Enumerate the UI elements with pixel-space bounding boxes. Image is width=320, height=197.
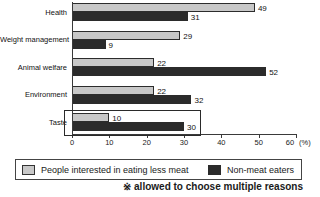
bar-less-meat	[72, 31, 180, 40]
category-label: Taste	[0, 118, 67, 127]
bar-chart-figure: Health4931Weight management299Animal wel…	[0, 0, 320, 197]
x-tick-label: 40	[211, 138, 231, 147]
x-tick-label: 50	[249, 138, 269, 147]
legend-item-non-meat: Non-meat eaters	[208, 160, 294, 179]
bar-less-meat	[72, 3, 255, 12]
taste-highlight-box	[64, 110, 201, 136]
x-tick-label: 0	[62, 138, 82, 147]
x-tick-label: 30	[174, 138, 194, 147]
value-label: 31	[191, 13, 200, 22]
legend-swatch-non-meat	[208, 165, 221, 175]
value-label: 49	[258, 4, 267, 13]
category-label: Health	[0, 8, 67, 17]
legend-swatch-less-meat	[22, 165, 35, 175]
value-label: 32	[194, 96, 203, 105]
value-label: 29	[183, 32, 192, 41]
category-label: Animal welfare	[0, 63, 67, 72]
bar-non-meat	[72, 95, 191, 104]
x-tick-label: 60	[280, 138, 300, 147]
bar-less-meat	[72, 58, 154, 67]
value-label: 9	[109, 41, 113, 50]
bar-non-meat	[72, 67, 266, 76]
legend-label-less-meat: People interested in eating less meat	[41, 165, 189, 175]
legend-item-less-meat: People interested in eating less meat	[22, 160, 189, 179]
bar-less-meat	[72, 86, 154, 95]
x-axis-unit-label: (%)	[299, 138, 311, 147]
bar-non-meat	[72, 40, 106, 49]
category-label: Weight management	[0, 35, 67, 44]
chart-area: Health4931Weight management299Animal wel…	[0, 0, 320, 150]
footnote: ※ allowed to choose multiple reasons	[123, 181, 303, 192]
legend: People interested in eating less meat No…	[15, 159, 302, 180]
value-label: 52	[269, 68, 278, 77]
x-tick-label: 10	[99, 138, 119, 147]
category-label: Environment	[0, 90, 67, 99]
bar-non-meat	[72, 12, 188, 21]
legend-label-non-meat: Non-meat eaters	[227, 165, 294, 175]
x-tick-label: 20	[137, 138, 157, 147]
